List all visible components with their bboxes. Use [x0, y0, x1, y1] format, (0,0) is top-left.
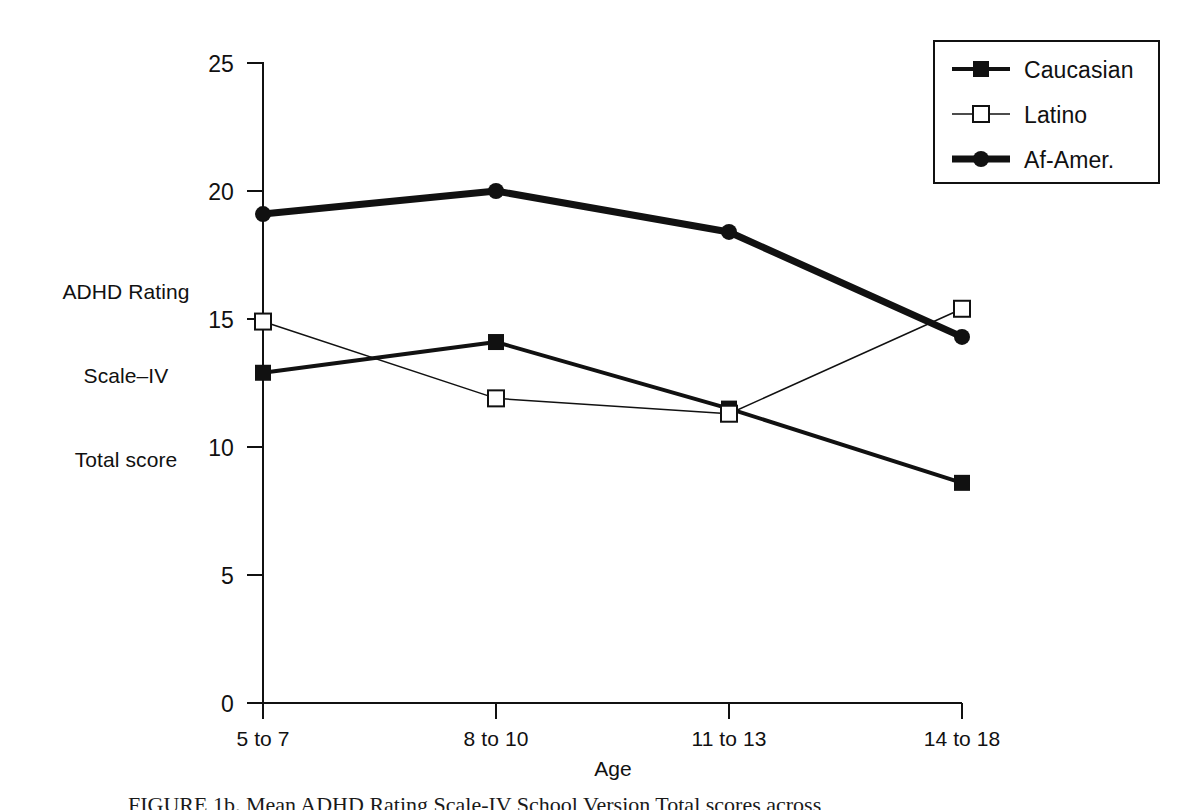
series-lines	[263, 191, 962, 483]
y-axis-title-line-2: Scale–IV	[26, 362, 226, 390]
series-line-latino	[263, 309, 962, 414]
y-axis-title-line-1: ADHD Rating	[26, 278, 226, 306]
y-tick-label-25: 25	[186, 51, 234, 78]
point-latino-1	[488, 390, 504, 406]
legend-sample-marker-2	[973, 151, 989, 167]
point-caucasian-3	[954, 475, 970, 491]
y-tick-label-0: 0	[186, 691, 234, 718]
series-line-caucasian	[263, 342, 962, 483]
y-axis-title: ADHD Rating Scale–IV Total score	[26, 222, 226, 530]
legend-label-latino: Latino	[1024, 102, 1087, 129]
point-latino-3	[954, 301, 970, 317]
axis-lines	[247, 62, 962, 718]
legend-sample-marker-0	[973, 61, 989, 77]
series-line-af-amer-	[263, 191, 962, 337]
x-tick-label-1: 8 to 10	[426, 727, 566, 751]
x-tick-label-0: 5 to 7	[193, 727, 333, 751]
y-tick-label-15: 15	[186, 307, 234, 334]
y-axis-ticks	[247, 63, 263, 703]
series-markers	[255, 183, 970, 491]
point-latino-0	[255, 314, 271, 330]
legend-label-caucasian: Caucasian	[1024, 57, 1134, 84]
point-af-amer--1	[488, 183, 504, 199]
point-latino-2	[721, 406, 737, 422]
point-caucasian-0	[255, 365, 271, 381]
y-tick-label-20: 20	[186, 179, 234, 206]
x-axis-title: Age	[533, 757, 693, 781]
x-tick-label-2: 11 to 13	[659, 727, 799, 751]
x-axis-ticks	[263, 703, 962, 719]
point-af-amer--0	[255, 206, 271, 222]
figure-container: ADHD Rating Scale–IV Total score 25 20 1…	[0, 0, 1193, 810]
figure-caption: FIGURE 1b. Mean ADHD Rating Scale-IV Sch…	[128, 792, 1078, 810]
legend-sample-marker-1	[973, 106, 989, 122]
point-caucasian-1	[488, 334, 504, 350]
y-tick-label-10: 10	[186, 435, 234, 462]
x-tick-label-3: 14 to 18	[892, 727, 1032, 751]
point-af-amer--3	[954, 329, 970, 345]
y-tick-label-5: 5	[186, 563, 234, 590]
point-af-amer--2	[721, 224, 737, 240]
legend-label-af-amer: Af-Amer.	[1024, 147, 1114, 174]
